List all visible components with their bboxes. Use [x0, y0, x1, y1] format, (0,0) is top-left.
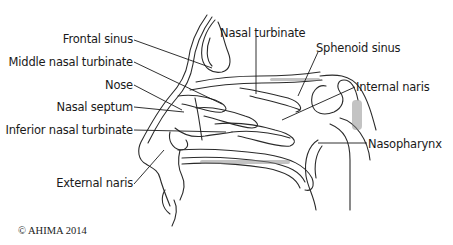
label-nose: Nose	[105, 78, 133, 92]
label-frontal-sinus: Frontal sinus	[63, 32, 133, 46]
label-nasopharynx: Nasopharynx	[368, 137, 442, 151]
label-inferior-nasal-turbinate: Inferior nasal turbinate	[5, 123, 133, 137]
label-middle-nasal-turbinate: Middle nasal turbinate	[9, 55, 133, 69]
label-nasal-turbinate: Nasal turbinate	[220, 26, 305, 40]
label-internal-naris: Internal naris	[356, 80, 429, 94]
nasal-anatomy-diagram: Frontal sinus Middle nasal turbinate Nos…	[0, 0, 453, 245]
label-sphenoid-sinus: Sphenoid sinus	[316, 41, 400, 55]
label-nasal-septum: Nasal septum	[56, 100, 133, 114]
label-external-naris: External naris	[56, 176, 133, 190]
copyright-notice: © AHIMA 2014	[18, 225, 87, 236]
